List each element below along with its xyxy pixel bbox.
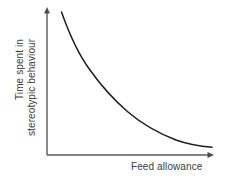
x-axis-arrowhead	[208, 152, 215, 158]
decay-curve	[62, 12, 213, 147]
y-axis-label-line-1: Time spent in	[14, 39, 25, 100]
y-axis-arrowhead	[44, 7, 50, 14]
chart-figure: Time spent in stereotypic behaviour Feed…	[0, 0, 225, 179]
x-axis-label: Feed allowance	[131, 161, 202, 172]
y-axis-label-line-2: stereotypic behaviour	[26, 39, 37, 136]
